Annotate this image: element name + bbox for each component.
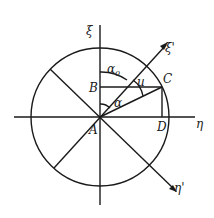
- label-xi: ξ: [86, 24, 94, 38]
- label-eta: η: [196, 117, 204, 131]
- label-b: B: [88, 81, 98, 95]
- label-c: C: [163, 72, 172, 86]
- label-xi-prime: ξ': [165, 41, 175, 55]
- segment-ac: [100, 87, 162, 117]
- label-u: u: [137, 75, 145, 89]
- label-a: A: [88, 123, 98, 137]
- diagram-canvas: ξ η ξ' η' A B C D α0 α u: [0, 0, 214, 218]
- angle-alpha-arc: [100, 104, 110, 108]
- label-eta-prime: η': [174, 181, 185, 195]
- label-alpha0: α0: [107, 62, 120, 78]
- label-d: D: [156, 120, 167, 134]
- label-alpha: α: [114, 96, 122, 110]
